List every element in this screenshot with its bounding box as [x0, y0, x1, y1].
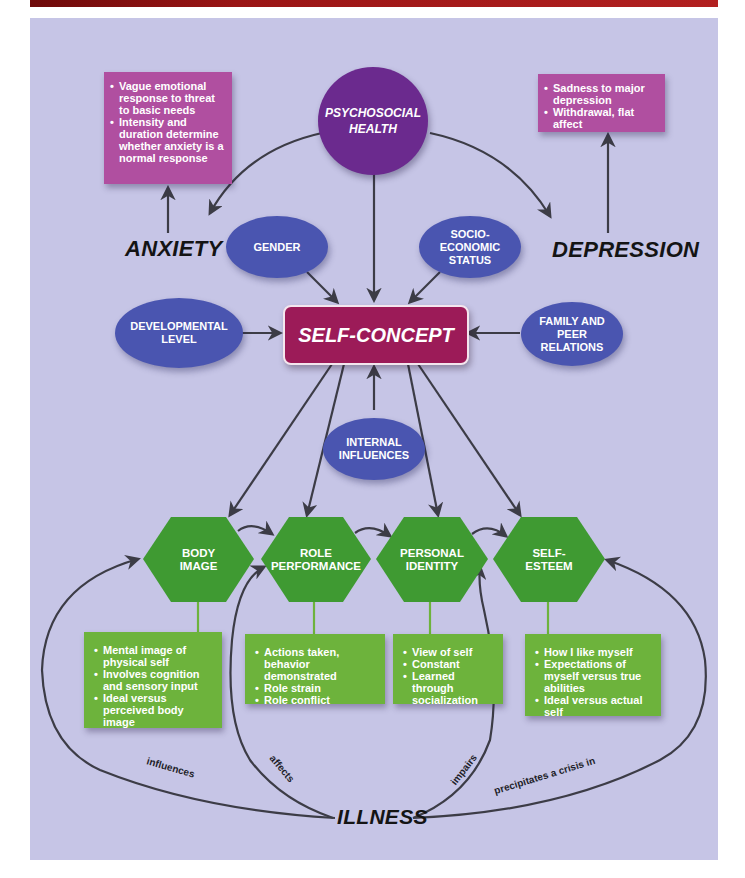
psychosocial-label-line2: HEALTH — [325, 121, 421, 137]
anxiety-detail-item: Intensity and duration determine whether… — [110, 116, 226, 164]
self-esteem-line2: ESTEEM — [525, 560, 572, 573]
internal-influence: INTERNAL INFLUENCES — [323, 418, 425, 480]
psychosocial-label-line1: PSYCHOSOCIAL — [325, 105, 421, 121]
role-performance-detail-item: Actions taken, behavior demonstrated — [255, 646, 377, 682]
arrow-gender — [307, 272, 337, 302]
personal-identity-label: PERSONALIDENTITY — [376, 517, 488, 602]
anxiety-detail-box: Vague emotional response to threat to ba… — [104, 72, 232, 184]
internal-line2: INFLUENCES — [339, 449, 409, 462]
developmental-line2: LEVEL — [130, 333, 228, 346]
anxiety-detail-item: Vague emotional response to threat to ba… — [110, 80, 226, 116]
self-esteem-detail-box: How I like myself Expectations of myself… — [525, 634, 661, 716]
socioeconomic-line3: STATUS — [440, 254, 501, 267]
role-performance-detail-item: Role conflict — [255, 694, 377, 706]
personal-identity-detail-item: Constant — [403, 658, 495, 670]
self-esteem-detail-item: Ideal versus actual self — [535, 694, 653, 718]
self-esteem-line1: SELF- — [525, 547, 572, 560]
personal-identity-detail-box: View of self Constant Learned through so… — [393, 634, 503, 704]
personal-identity-line1: PERSONAL — [400, 547, 464, 560]
developmental-line1: DEVELOPMENTAL — [130, 320, 228, 333]
depression-detail-box: Sadness to major depression Withdrawal, … — [538, 74, 665, 132]
gender-influence: GENDER — [226, 216, 328, 278]
body-image-line2: IMAGE — [180, 560, 218, 573]
family-line1: FAMILY AND — [539, 315, 605, 328]
family-line3: RELATIONS — [539, 341, 605, 354]
role-performance-line1: ROLE — [271, 547, 361, 560]
family-line2: PEER — [539, 328, 605, 341]
gender-label: GENDER — [253, 241, 300, 254]
role-performance-label: ROLEPERFORMANCE — [261, 517, 371, 602]
body-image-line1: BODY — [180, 547, 218, 560]
arrow-psychosocial-to-depression — [430, 133, 550, 216]
socioeconomic-line2: ECONOMIC — [440, 241, 501, 254]
personal-identity-line2: IDENTITY — [400, 560, 464, 573]
illness-label: ILLNESS — [337, 805, 428, 829]
family-peer-influence: FAMILY AND PEER RELATIONS — [521, 302, 623, 366]
arrow-socioeconomic — [410, 272, 440, 302]
body-image-label: BODYIMAGE — [143, 517, 254, 602]
body-image-detail-item: Mental image of physical self — [94, 644, 214, 668]
depression-detail-item: Sadness to major depression — [544, 82, 659, 106]
depression-detail-item: Withdrawal, flat affect — [544, 106, 659, 130]
role-performance-line2: PERFORMANCE — [271, 560, 361, 573]
depression-label: DEPRESSION — [552, 237, 699, 263]
self-esteem-detail-item: How I like myself — [535, 646, 653, 658]
self-esteem-detail-item: Expectations of myself versus true abili… — [535, 658, 653, 694]
internal-line1: INTERNAL — [339, 436, 409, 449]
self-concept-label: SELF-CONCEPT — [298, 324, 454, 347]
arrow-to-body-image — [230, 364, 332, 515]
psychosocial-health-node: PSYCHOSOCIAL HEALTH — [318, 67, 428, 175]
body-image-detail-box: Mental image of physical self Involves c… — [84, 632, 222, 728]
personal-identity-detail-item: View of self — [403, 646, 495, 658]
self-esteem-label: SELF-ESTEEM — [493, 517, 605, 602]
socioeconomic-line1: SOCIO- — [440, 228, 501, 241]
anxiety-label: ANXIETY — [125, 236, 222, 262]
socioeconomic-influence: SOCIO- ECONOMIC STATUS — [419, 216, 521, 278]
personal-identity-detail-item: Learned through socialization — [403, 670, 495, 706]
role-performance-detail-item: Role strain — [255, 682, 377, 694]
role-performance-detail-box: Actions taken, behavior demonstrated Rol… — [245, 634, 385, 704]
body-image-detail-item: Involves cognition and sensory input — [94, 668, 214, 692]
self-concept-node: SELF-CONCEPT — [283, 305, 469, 365]
body-image-detail-item: Ideal versus perceived body image — [94, 692, 214, 728]
developmental-influence: DEVELOPMENTAL LEVEL — [115, 298, 243, 368]
